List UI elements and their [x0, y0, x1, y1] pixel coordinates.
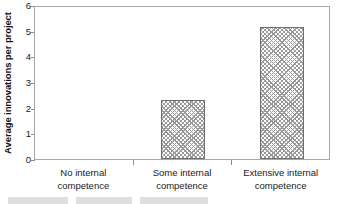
bar-chart: Average innovations per project 0123456 …	[0, 0, 343, 204]
bar	[260, 27, 304, 159]
y-axis-tick-label: 1	[15, 129, 31, 139]
y-axis-tick-label: 2	[15, 104, 31, 114]
x-axis-category-label-line: Extensive internal	[231, 166, 330, 179]
x-axis-category-labels: No internalcompetenceSome internalcompet…	[34, 166, 330, 196]
x-axis-category-label-line: competence	[231, 179, 330, 192]
plot-inner	[35, 7, 329, 159]
x-axis-category-label-line: competence	[34, 179, 133, 192]
y-axis-tick-label: 5	[15, 27, 31, 37]
x-axis-category-label: Some internalcompetence	[133, 166, 232, 196]
x-axis-category-label-line: competence	[133, 179, 232, 192]
y-axis-tick-label: 3	[15, 78, 31, 88]
y-axis-tick-label: 6	[15, 1, 31, 11]
y-axis-tick-label: 0	[15, 155, 31, 165]
x-axis-category-label: No internalcompetence	[34, 166, 133, 196]
y-axis-tick-label: 4	[15, 52, 31, 62]
x-axis-category-label: Extensive internalcompetence	[231, 166, 330, 196]
y-axis-tick-labels: 0123456	[14, 0, 31, 204]
cut-off-caption-strip	[8, 197, 208, 204]
x-axis-category-label-line: No internal	[34, 166, 133, 179]
plot-area	[34, 6, 330, 160]
x-axis-tick-mark	[133, 160, 134, 165]
x-axis-category-label-line: Some internal	[133, 166, 232, 179]
x-axis-tick-mark	[231, 160, 232, 165]
bar	[161, 100, 205, 159]
